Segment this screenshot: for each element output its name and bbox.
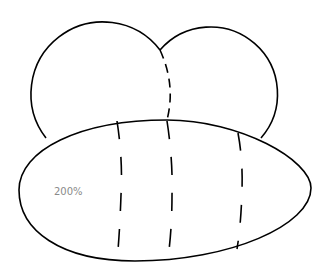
bee-diagram: 200% [0,0,329,277]
zoom-label: 200% [54,186,83,197]
lobe-overlap-dashed [160,50,170,120]
